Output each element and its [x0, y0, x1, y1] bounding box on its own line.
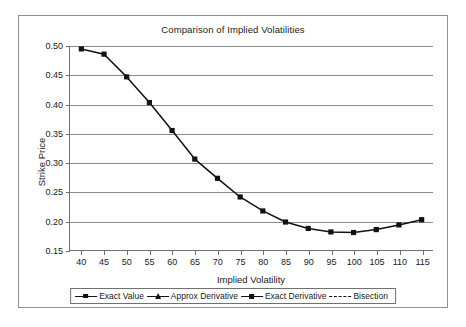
data-point-marker	[306, 226, 311, 231]
x-tick-mark	[354, 250, 355, 255]
x-tick-mark	[81, 250, 82, 255]
x-tick-mark	[127, 250, 128, 255]
x-tick-label: 105	[370, 257, 385, 267]
data-point-marker	[170, 128, 175, 133]
data-point-marker	[283, 219, 288, 224]
chart-title: Comparison of Implied Volatilities	[19, 24, 447, 35]
y-tick-label: 0.20	[45, 217, 63, 227]
x-tick-mark	[400, 250, 401, 255]
x-tick-label: 45	[99, 257, 109, 267]
x-tick-label: 55	[145, 257, 155, 267]
x-tick-label: 50	[122, 257, 132, 267]
x-tick-mark	[195, 250, 196, 255]
x-tick-mark	[104, 250, 105, 255]
chart-legend: Exact ValueApprox DerivativeExact Deriva…	[70, 288, 396, 304]
x-tick-mark	[218, 250, 219, 255]
data-point-marker	[147, 100, 152, 105]
x-tick-mark	[263, 250, 264, 255]
chart-figure: Comparison of Implied Volatilities Strik…	[0, 0, 466, 327]
x-tick-mark	[150, 250, 151, 255]
x-tick-label: 65	[190, 257, 200, 267]
data-point-marker	[192, 156, 197, 161]
x-tick-mark	[423, 250, 424, 255]
x-tick-label: 75	[236, 257, 246, 267]
x-tick-mark	[377, 250, 378, 255]
y-tick-label: 0.45	[45, 70, 63, 80]
chart-frame: Comparison of Implied Volatilities Strik…	[18, 15, 448, 308]
legend-label: Exact Derivative	[265, 291, 326, 301]
data-point-marker	[374, 227, 379, 232]
x-tick-label: 95	[327, 257, 337, 267]
x-tick-label: 80	[258, 257, 268, 267]
x-tick-label: 60	[167, 257, 177, 267]
data-series-group	[70, 46, 433, 250]
data-point-marker	[396, 222, 401, 227]
data-point-marker	[419, 217, 424, 222]
legend-marker-icon	[147, 292, 169, 301]
plot-area: 0.150.200.250.300.350.400.450.50 4045505…	[69, 46, 433, 251]
legend-entry: Approx Derivative	[147, 291, 241, 301]
x-tick-label: 85	[281, 257, 291, 267]
legend-label: Exact Value	[99, 291, 144, 301]
y-tick-label: 0.30	[45, 158, 63, 168]
legend-entry: Exact Value	[75, 291, 147, 301]
y-tick-label: 0.15	[45, 246, 63, 256]
legend-entry: Exact Derivative	[241, 291, 329, 301]
series-line-exact-derivative	[81, 49, 421, 233]
x-tick-label: 70	[213, 257, 223, 267]
y-tick-label: 0.35	[45, 129, 63, 139]
x-tick-label: 100	[347, 257, 362, 267]
legend-label: Bisection	[353, 291, 388, 301]
legend-marker-icon	[75, 292, 97, 301]
data-point-marker	[215, 176, 220, 181]
y-tick-label: 0.25	[45, 187, 63, 197]
legend-marker-icon	[329, 292, 351, 301]
x-axis-label: Implied Volatility	[69, 274, 433, 285]
data-point-marker	[351, 230, 356, 235]
x-tick-mark	[286, 250, 287, 255]
legend-marker-icon	[241, 292, 263, 301]
legend-label: Approx Derivative	[171, 291, 238, 301]
y-tick-label: 0.40	[45, 100, 63, 110]
x-tick-mark	[309, 250, 310, 255]
data-point-marker	[260, 208, 265, 213]
x-tick-label: 110	[393, 257, 407, 267]
data-point-marker	[238, 194, 243, 199]
data-point-marker	[101, 52, 106, 57]
y-tick-label: 0.50	[45, 41, 63, 51]
x-tick-mark	[332, 250, 333, 255]
data-point-marker	[79, 46, 84, 51]
x-tick-mark	[241, 250, 242, 255]
x-tick-label: 90	[304, 257, 314, 267]
data-point-marker	[124, 74, 129, 79]
legend-entry: Bisection	[329, 291, 391, 301]
x-tick-label: 115	[415, 257, 429, 267]
data-point-marker	[328, 229, 333, 234]
x-tick-mark	[172, 250, 173, 255]
x-tick-label: 40	[76, 257, 86, 267]
y-tick-mark	[66, 251, 70, 252]
